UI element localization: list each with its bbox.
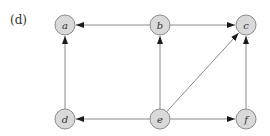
edge-e-to-c: [167, 33, 239, 112]
node-f: f: [236, 109, 256, 129]
node-e: e: [150, 109, 170, 129]
node-label: a: [62, 20, 68, 31]
directed-graph: abcdef: [0, 0, 270, 136]
node-label: b: [157, 20, 163, 31]
node-label: c: [243, 20, 249, 31]
node-d: d: [55, 109, 75, 129]
node-label: d: [62, 114, 68, 125]
node-label: e: [157, 114, 163, 125]
node-b: b: [150, 15, 170, 35]
nodes-layer: abcdef: [55, 15, 256, 129]
edges-layer: [65, 25, 246, 119]
node-c: c: [236, 15, 256, 35]
node-a: a: [55, 15, 75, 35]
